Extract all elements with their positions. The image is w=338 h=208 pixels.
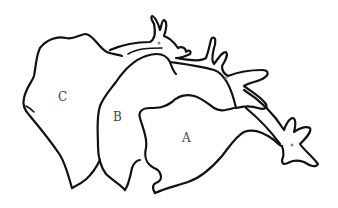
- marker-dot: [225, 77, 228, 80]
- marker-dot: [291, 144, 294, 147]
- label-b: B: [113, 110, 122, 124]
- label-a: A: [182, 131, 191, 145]
- shape-b-outline: [98, 54, 177, 190]
- label-c: C: [58, 90, 67, 104]
- stalk-lower-arc: [244, 90, 318, 166]
- diagram-canvas: [0, 0, 338, 208]
- marker-dot: [158, 42, 161, 45]
- shape-c-bottom-edge: [72, 160, 100, 188]
- shape-c-outline: [23, 34, 122, 188]
- shape-b-bottom-edge: [125, 160, 140, 190]
- shape-a-right-edge: [155, 131, 282, 193]
- stalk-lower-inner: [246, 108, 280, 144]
